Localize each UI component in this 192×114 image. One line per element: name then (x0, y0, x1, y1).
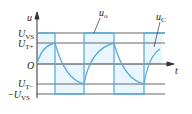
svg-text:uo: uo (99, 7, 108, 20)
y-axis-label: u (27, 12, 32, 23)
t-axis-label: t (175, 65, 178, 76)
y-axis-arrow-icon (35, 12, 39, 19)
label-u-c: uC (156, 11, 166, 24)
waveform-diagram: u t O UVS UT+ UT− −UVS uo uC (0, 0, 192, 114)
u-o-leader (94, 18, 100, 33)
origin-label: O (27, 60, 34, 71)
svg-text:uC: uC (156, 11, 166, 24)
label-u-o: uo (99, 7, 108, 20)
t-axis-arrow-icon (167, 62, 174, 66)
